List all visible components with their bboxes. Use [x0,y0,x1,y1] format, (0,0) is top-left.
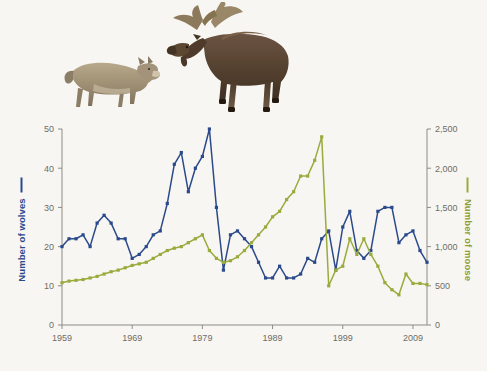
data-point [278,265,281,268]
series-number-of-wolves [60,127,428,279]
data-point [299,174,302,177]
data-point [124,237,127,240]
moose-legend-dash [466,178,468,193]
data-point [159,253,162,256]
data-point [67,280,70,283]
data-point [117,269,120,272]
axis-spines [62,129,427,325]
data-point [187,241,190,244]
data-point [222,269,225,272]
x-axis-tick-label: 1999 [333,333,353,343]
y-axis-left-tick-label: 30 [44,203,54,213]
data-point [110,270,113,273]
data-point [271,215,274,218]
data-point [264,276,267,279]
wolf-moose-figure: 0102030405005001,0001,5002,0002,50019591… [0,0,487,371]
data-point [60,245,63,248]
data-point [320,237,323,240]
y-axis-left-tick-label: 20 [44,242,54,252]
data-point [81,233,84,236]
data-point [103,272,106,275]
data-point [229,233,232,236]
y-axis-left-title-text: Number of wolves [16,198,27,281]
data-point [110,221,113,224]
data-point [397,293,400,296]
data-point [208,127,211,130]
data-point [67,237,70,240]
data-point [383,281,386,284]
data-point [285,198,288,201]
data-point [166,202,169,205]
data-point [411,282,414,285]
data-point [369,253,372,256]
data-point [334,269,337,272]
data-point [88,276,91,279]
y-axis-right-tick-label: 500 [435,281,450,291]
data-point [243,237,246,240]
data-point [390,288,393,291]
data-point [404,272,407,275]
data-point [201,233,204,236]
data-point [215,206,218,209]
data-point [348,237,351,240]
data-point [292,190,295,193]
data-point [285,276,288,279]
data-point [243,249,246,252]
data-point [250,245,253,248]
data-point [418,282,421,285]
data-point [215,257,218,260]
data-point [166,249,169,252]
data-point [320,135,323,138]
data-point [341,225,344,228]
chart: 0102030405005001,0001,5002,0002,50019591… [0,0,487,371]
data-point [327,229,330,232]
y-axis-left-tick-label: 10 [44,281,54,291]
y-axis-right-title: Number of moose [463,165,474,295]
data-point [418,249,421,252]
y-axis-right-title-text: Number of moose [463,199,474,281]
data-point [404,233,407,236]
data-point [103,214,106,217]
data-point [341,265,344,268]
y-axis-left-tick-label: 0 [49,320,54,330]
data-point [138,262,141,265]
y-axis-right-tick-label: 0 [435,320,440,330]
data-point [81,278,84,281]
series-number-of-moose [60,135,428,296]
data-point [264,225,267,228]
data-point [173,163,176,166]
data-point [383,206,386,209]
data-point [376,210,379,213]
data-point [138,253,141,256]
data-point [257,261,260,264]
x-axis-tick-label: 1979 [192,333,212,343]
data-point [425,283,428,286]
data-point [397,241,400,244]
data-point [348,210,351,213]
data-point [376,265,379,268]
data-point [222,261,225,264]
data-point [278,210,281,213]
data-point [250,241,253,244]
data-point [117,237,120,240]
data-point [131,257,134,260]
data-point [96,275,99,278]
data-point [187,190,190,193]
y-axis-right-tick-label: 1,500 [435,203,458,213]
data-point [208,249,211,252]
x-axis-tick-label: 1959 [52,333,72,343]
data-point [390,206,393,209]
data-point [152,233,155,236]
wolves-legend-dash [21,177,23,192]
data-point [425,261,428,264]
data-point [96,221,99,224]
data-point [299,272,302,275]
data-point [180,245,183,248]
x-axis-tick-label: 1969 [122,333,142,343]
data-point [88,245,91,248]
data-point [236,229,239,232]
x-axis-tick-label: 1989 [263,333,283,343]
chart-svg: 0102030405005001,0001,5002,0002,50019591… [0,0,487,371]
data-point [173,247,176,250]
data-point [313,261,316,264]
